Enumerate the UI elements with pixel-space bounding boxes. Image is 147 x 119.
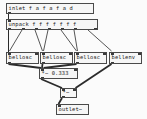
object-box-unpack[interactable]: unpack f f f f f f f xyxy=(6,19,98,30)
cord-mult-scale-to-mult-env xyxy=(41,79,62,88)
inlet-tab-right xyxy=(74,69,77,71)
cord-unpack-to-bellosc1-b xyxy=(10,30,23,51)
object-text-bellosc-1: bellosc xyxy=(9,55,33,60)
object-text-unpack: unpack f f f f f f f xyxy=(9,22,77,27)
object-box-bellosc-3[interactable]: bellosc xyxy=(74,52,107,64)
object-box-inlet[interactable]: inlet f a f a f a d xyxy=(6,3,94,14)
object-text-mult-scale: *~ 0.333 xyxy=(42,71,69,76)
cord-unpack-to-bellosc2 xyxy=(35,30,43,51)
outlet-tab-2 xyxy=(35,28,38,30)
object-text-outlet: outlet~ xyxy=(59,107,83,112)
object-text-inlet: inlet f a f a f a d xyxy=(9,6,74,11)
object-box-mult-scale[interactable]: *~ 0.333 xyxy=(39,68,78,79)
object-box-bellosc-2[interactable]: bellosc xyxy=(40,52,73,64)
cord-unpack-to-bellosc3 xyxy=(61,30,77,51)
outlet-tab-5 xyxy=(74,28,77,30)
outlet-tab-3 xyxy=(48,28,51,30)
outlet-tab-6 xyxy=(94,28,97,30)
inlet-tab-right xyxy=(73,89,76,91)
cord-bellenv-to-mult-env xyxy=(76,64,112,88)
object-text-bellosc-3: bellosc xyxy=(77,55,101,60)
object-text-bellosc-2: bellosc xyxy=(43,55,67,60)
inlet-tab-right xyxy=(35,53,38,55)
cord-bellosc1-to-mult-scale xyxy=(9,64,42,68)
cord-unpack-to-bellosc3-b xyxy=(74,30,78,51)
cord-unpack-to-bellosc2-b xyxy=(44,30,49,51)
outlet-tab-1 xyxy=(22,28,25,30)
inlet-tab-right xyxy=(69,53,72,55)
outlet-tab-4 xyxy=(61,28,64,30)
object-box-outlet[interactable]: outlet~ xyxy=(56,104,89,115)
patcher-canvas[interactable]: inlet f a f a f a d unpack f f f f f f f… xyxy=(0,0,147,119)
inlet-tab-right xyxy=(138,53,141,55)
object-box-bellosc-1[interactable]: bellosc xyxy=(6,52,39,64)
inlet-tab-right xyxy=(103,53,106,55)
object-box-mult-env[interactable]: *~ xyxy=(60,88,77,98)
object-text-mult-env: *~ xyxy=(63,90,70,95)
cord-unpack-to-bellenv xyxy=(88,30,112,51)
object-text-bellenv: bellenv xyxy=(112,55,136,60)
object-box-bellenv[interactable]: bellenv xyxy=(109,52,142,64)
